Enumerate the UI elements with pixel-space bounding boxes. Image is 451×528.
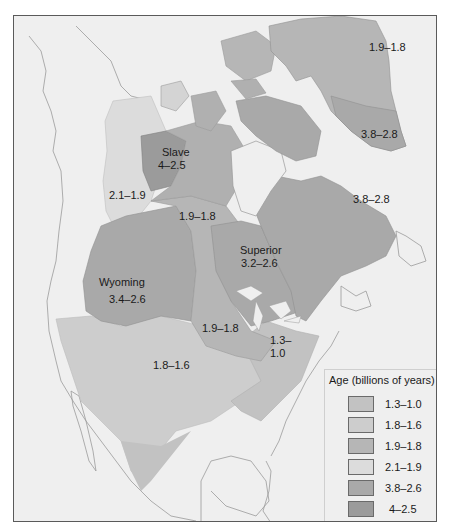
arctic-island-devon xyxy=(231,79,266,99)
legend-swatch xyxy=(348,480,374,496)
label-penokean: 1.9–1.8 xyxy=(202,322,239,335)
legend-label: 1.9–1.8 xyxy=(385,440,422,452)
legend-label: 4–2.5 xyxy=(389,503,417,515)
florida-outline xyxy=(263,461,271,522)
label-superior-name: Superior xyxy=(240,244,282,257)
gulf-coastline xyxy=(171,456,269,521)
arctic-island-banks xyxy=(161,81,189,111)
legend-item: 3.8–2.6 xyxy=(348,480,434,498)
label-grenville-line1: 1.3– xyxy=(270,334,291,347)
legend-swatch xyxy=(348,501,374,517)
legend-label: 1.3–1.0 xyxy=(385,398,422,410)
label-wyoming-age: 3.4–2.6 xyxy=(109,293,146,306)
nova-scotia-outline xyxy=(341,286,371,311)
label-slave-name: Slave xyxy=(162,146,190,159)
legend-item: 2.1–1.9 xyxy=(348,459,434,477)
legend-item: 4–2.5 xyxy=(348,501,434,519)
legend-item: 1.9–1.8 xyxy=(348,438,434,456)
legend-title: Age (billions of years) xyxy=(329,374,435,386)
label-wopmay: 2.1–1.9 xyxy=(109,189,146,202)
arctic-island-ellesmere xyxy=(221,31,276,81)
label-slave-age: 4–2.5 xyxy=(158,159,186,172)
arctic-coastline xyxy=(76,26,151,101)
label-yavapai: 1.8–1.6 xyxy=(153,359,190,372)
legend-label: 2.1–1.9 xyxy=(385,461,422,473)
region-wyoming xyxy=(83,206,196,326)
label-grenville-line2: 1.0 xyxy=(270,347,285,360)
legend-swatch xyxy=(348,417,374,433)
newfoundland-outline xyxy=(396,231,426,266)
label-trans-hudson: 1.9–1.8 xyxy=(179,210,216,223)
label-superior-age: 3.2–2.6 xyxy=(241,257,278,270)
legend-swatch xyxy=(348,459,374,475)
legend-label: 3.8–2.6 xyxy=(385,482,422,494)
label-greenland-north: 1.9–1.8 xyxy=(369,41,406,54)
legend-item: 1.8–1.6 xyxy=(348,417,434,435)
legend-label: 1.8–1.6 xyxy=(385,419,422,431)
label-labrador: 3.8–2.8 xyxy=(353,193,390,206)
legend-swatch xyxy=(348,396,374,412)
legend-swatch xyxy=(348,438,374,454)
label-wyoming-name: Wyoming xyxy=(99,276,145,289)
map-frame: 1.9–1.8 3.8–2.8 Slave 4–2.5 2.1–1.9 1.9–… xyxy=(13,15,437,522)
label-greenland-south: 3.8–2.8 xyxy=(361,128,398,141)
legend: Age (billions of years) 1.3–1.0 1.8–1.6 … xyxy=(324,369,437,522)
legend-item: 1.3–1.0 xyxy=(348,396,434,414)
